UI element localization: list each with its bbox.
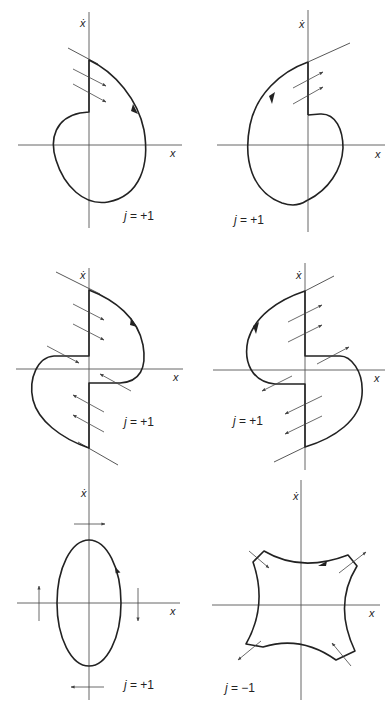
phase-trajectory [53, 60, 145, 203]
x-axis-label: x [368, 607, 375, 619]
switching-line [274, 447, 305, 462]
phase-trajectory [246, 551, 357, 660]
panel-5: ẋ x j = +1 [17, 470, 180, 700]
j-label: j = +1 [122, 678, 154, 692]
xdot-axis-label: ẋ [79, 269, 86, 281]
xdot-axis-label: ẋ [295, 269, 302, 281]
flow-arrow-icon [339, 552, 366, 573]
x-axis-label: x [374, 148, 381, 160]
flow-arrow-icon [285, 396, 322, 414]
phase-trajectory [248, 62, 343, 205]
x-axis-label: x [169, 605, 176, 617]
direction-arrow-icon [269, 92, 275, 104]
j-label: j = +1 [231, 414, 263, 428]
panel-4: ẋ x j = +1 [213, 263, 385, 470]
switching-line [305, 276, 334, 291]
x-axis-label: x [172, 371, 179, 383]
phase-plane-figure: ẋ x j+1 = +1 ẋ x j = +1 ẋ x [0, 0, 391, 705]
xdot-axis-label: ẋ [292, 490, 299, 502]
panel-6: ẋ x j = −1 [212, 480, 380, 700]
j-label: j = +1 [232, 213, 264, 227]
phase-trajectory [247, 291, 363, 447]
j-label: j = −1 [223, 681, 255, 695]
xdot-axis-label: ẋ [298, 18, 305, 30]
j-label: j = +1 [122, 415, 154, 429]
panel-2: ẋ x j = +1 [217, 10, 385, 232]
xdot-axis-label: ẋ [79, 17, 86, 29]
panel-3: ẋ x j = +1 [16, 268, 183, 470]
xdot-axis-label: ẋ [80, 487, 87, 499]
flow-arrow-icon [249, 551, 269, 568]
x-axis-label: x [373, 372, 380, 384]
x-axis-label: x [169, 147, 176, 159]
j-label: j+1 = +1 [122, 209, 154, 223]
panel-1: ẋ x j+1 = +1 [18, 12, 182, 228]
switching-line [308, 43, 350, 62]
switching-line [56, 272, 100, 294]
flow-arrow-icon [47, 346, 79, 363]
flow-arrow-icon [285, 416, 322, 434]
direction-arrow-icon [130, 318, 137, 327]
